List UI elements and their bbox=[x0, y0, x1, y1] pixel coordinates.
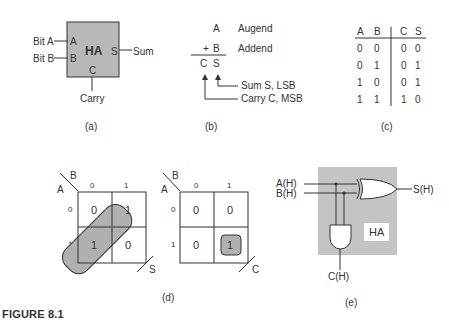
cell: 1 bbox=[357, 77, 363, 88]
cell: 1 bbox=[357, 94, 363, 105]
kmap-cell: 0 bbox=[125, 239, 131, 251]
cell: 0 bbox=[401, 60, 407, 71]
bit-b-label: Bit B bbox=[33, 53, 54, 64]
cell: 0 bbox=[374, 77, 380, 88]
kmap-cell: 1 bbox=[125, 204, 131, 216]
cell: 1 bbox=[415, 60, 421, 71]
port-s: S bbox=[111, 46, 118, 57]
input-b-label: B(H) bbox=[276, 188, 297, 199]
cell: 1 bbox=[374, 94, 380, 105]
arrow-up-c-icon bbox=[202, 74, 208, 80]
port-b: B bbox=[70, 53, 77, 64]
carry-label: Carry bbox=[80, 93, 104, 104]
cell: 0 bbox=[401, 77, 407, 88]
kmap-s-col-var: B bbox=[70, 170, 77, 181]
cell: 0 bbox=[401, 43, 407, 54]
kmap-s-output: S bbox=[149, 264, 156, 275]
caption-b: (b) bbox=[205, 121, 217, 132]
caption-a: (a) bbox=[85, 121, 97, 132]
cell: 0 bbox=[415, 43, 421, 54]
addend-var: B bbox=[213, 43, 220, 54]
col-label: 0 bbox=[194, 181, 199, 190]
kmap-cell: 0 bbox=[193, 239, 199, 251]
panel-c: A B C S 0 0 0 0 0 1 0 1 1 0 0 1 1 1 1 0 … bbox=[355, 26, 426, 132]
caption-e: (e) bbox=[345, 297, 357, 308]
kmap-c-row-var: A bbox=[161, 184, 168, 195]
ha-label: HA bbox=[369, 226, 385, 238]
kmap-cell: 0 bbox=[91, 204, 97, 216]
augend-var: A bbox=[213, 23, 220, 34]
arrow-up-s-icon bbox=[215, 74, 221, 80]
ha-label: HA bbox=[85, 44, 103, 58]
col-label: 1 bbox=[124, 181, 129, 190]
cell: 0 bbox=[374, 43, 380, 54]
figure-canvas: Bit A Bit B A B HA S C Sum Carry (a) A A… bbox=[0, 0, 449, 328]
row-label: 1 bbox=[171, 240, 176, 249]
panel-b: A Augend + B Addend C S Sum S, LSB Carry… bbox=[191, 23, 303, 132]
kmap-cell: 1 bbox=[91, 239, 97, 251]
cell: 1 bbox=[374, 60, 380, 71]
bit-a-label: Bit A bbox=[33, 36, 54, 47]
augend-label: Augend bbox=[238, 23, 272, 34]
kmap-s-row-var: A bbox=[57, 184, 64, 195]
kmap-c: B A 0 1 0 1 0 0 0 1 C (d) bbox=[161, 170, 259, 303]
output-s-label: S(H) bbox=[413, 184, 434, 195]
kmap-s: B A 0 1 0 1 0 1 1 0 S bbox=[57, 170, 156, 279]
col-label: 0 bbox=[90, 181, 95, 190]
kmap-c-output: C bbox=[252, 264, 259, 275]
kmap-cell: 1 bbox=[227, 239, 233, 251]
panel-e: A(H) B(H) S(H) C(H) HA (e) bbox=[276, 167, 434, 308]
header-c: C bbox=[400, 26, 407, 37]
output-c-label: C(H) bbox=[328, 271, 349, 282]
panel-a: Bit A Bit B A B HA S C Sum Carry (a) bbox=[33, 22, 154, 132]
caption-d: (d) bbox=[162, 292, 174, 303]
kmap-cell: 0 bbox=[193, 204, 199, 216]
col-label: 1 bbox=[227, 181, 232, 190]
cell: 0 bbox=[357, 43, 363, 54]
cell: 1 bbox=[401, 94, 407, 105]
result-c: C bbox=[200, 58, 207, 69]
row-label: 0 bbox=[171, 205, 176, 214]
port-c: C bbox=[89, 65, 96, 76]
carry-note: Carry C, MSB bbox=[241, 93, 303, 104]
header-s: S bbox=[415, 26, 422, 37]
kmap-c-col-var: B bbox=[172, 170, 179, 181]
header-a: A bbox=[357, 26, 364, 37]
result-s: S bbox=[213, 58, 220, 69]
cell: 0 bbox=[415, 94, 421, 105]
caption-c: (c) bbox=[381, 121, 393, 132]
row-label: 0 bbox=[68, 205, 73, 214]
port-a: A bbox=[70, 36, 77, 47]
cell: 1 bbox=[415, 77, 421, 88]
plus-sign: + bbox=[203, 43, 209, 54]
cell: 0 bbox=[357, 60, 363, 71]
sum-note: Sum S, LSB bbox=[241, 80, 296, 91]
header-b: B bbox=[374, 26, 381, 37]
kmap-cell: 0 bbox=[227, 204, 233, 216]
sum-label: Sum bbox=[133, 46, 154, 57]
figure-label: FIGURE 8.1 bbox=[2, 308, 64, 320]
and-gate-icon bbox=[330, 225, 351, 249]
addend-label: Addend bbox=[238, 43, 272, 54]
